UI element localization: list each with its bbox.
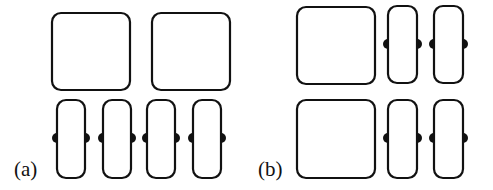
tall-block: [388, 6, 417, 83]
tall-block: [434, 100, 463, 178]
square-block: [297, 7, 375, 84]
square-block: [52, 13, 130, 90]
diagram-canvas: [0, 0, 493, 190]
tall-block: [147, 100, 175, 178]
panel-b: [297, 6, 468, 178]
tall-block: [434, 6, 463, 83]
tall-block: [103, 100, 131, 178]
tall-block: [388, 100, 417, 178]
square-block: [152, 13, 230, 90]
square-block: [297, 100, 375, 178]
tall-block: [57, 100, 85, 178]
panel-a: [52, 13, 230, 178]
figure: (a) (b): [0, 0, 493, 190]
panel-label-b: (b): [258, 159, 283, 180]
panel-label-a: (a): [14, 159, 37, 180]
tall-block: [193, 100, 221, 178]
